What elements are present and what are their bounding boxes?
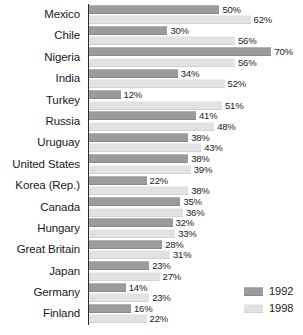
bar-1992 [89, 304, 131, 313]
category-axis-labels: MexicoChileNigeriaIndiaTurkeyRussiaUrugu… [0, 4, 84, 325]
legend-item-1992[interactable]: 1992 [244, 284, 293, 298]
chart-legend: 19921998 [244, 284, 293, 318]
legend-swatch-icon [244, 304, 263, 313]
bar-value-label: 28% [165, 240, 183, 249]
bar-1998 [89, 101, 222, 110]
bar-value-label: 70% [274, 47, 292, 56]
bar-1998 [89, 36, 235, 45]
bar-1992 [89, 111, 196, 120]
category-label: Uruguay [0, 132, 84, 153]
bar-value-label: 50% [222, 5, 240, 14]
category-label: United States [0, 154, 84, 175]
bar-1992 [89, 133, 188, 142]
legend-item-1998[interactable]: 1998 [244, 301, 293, 315]
bar-value-label: 27% [163, 272, 181, 281]
bar-group: 50%62% [89, 4, 303, 25]
category-label: Chile [0, 25, 84, 46]
bar-value-label: 35% [183, 197, 201, 206]
bar-group: 34%52% [89, 68, 303, 89]
bar-1998 [89, 58, 235, 67]
bar-1992 [89, 261, 149, 270]
legend-label: 1998 [269, 302, 293, 314]
bar-value-label: 56% [238, 36, 256, 45]
bar-1998 [89, 208, 183, 217]
bar-1998 [89, 272, 159, 281]
bar-value-label: 32% [176, 218, 194, 227]
bar-value-label: 30% [170, 26, 188, 35]
bar-1998 [89, 250, 170, 259]
plot-area: 50%62%30%56%70%56%34%52%12%51%41%48%38%4… [88, 4, 303, 325]
bar-1998 [89, 122, 214, 131]
category-label: Russia [0, 111, 84, 132]
bar-value-label: 12% [124, 90, 142, 99]
bar-group: 28%31% [89, 239, 303, 260]
bar-group: 41%48% [89, 111, 303, 132]
category-label: Canada [0, 197, 84, 218]
bar-value-label: 62% [254, 15, 272, 24]
bar-value-label: 22% [150, 176, 168, 185]
bar-group: 38%43% [89, 132, 303, 153]
category-label: Mexico [0, 4, 84, 25]
legend-label: 1992 [269, 285, 293, 297]
bar-value-label: 38% [191, 154, 209, 163]
bar-1998 [89, 293, 149, 302]
bar-1992 [89, 90, 120, 99]
bar-value-label: 16% [134, 304, 152, 313]
bar-group: 22%38% [89, 175, 303, 196]
bar-value-label: 34% [181, 69, 199, 78]
bar-1992 [89, 69, 177, 78]
bar-value-label: 41% [199, 111, 217, 120]
bar-value-label: 23% [152, 293, 170, 302]
bar-1992 [89, 47, 271, 56]
bar-1998 [89, 314, 146, 323]
bar-value-label: 51% [225, 101, 243, 110]
bar-value-label: 38% [191, 133, 209, 142]
bar-value-label: 38% [191, 186, 209, 195]
category-label: Finland [0, 303, 84, 324]
bar-1992 [89, 26, 167, 35]
category-label: Hungary [0, 218, 84, 239]
bar-1998 [89, 79, 224, 88]
bar-value-label: 56% [238, 58, 256, 67]
bar-group: 23%27% [89, 261, 303, 282]
bar-1992 [89, 5, 219, 14]
category-label: Turkey [0, 90, 84, 111]
bar-1998 [89, 186, 188, 195]
bar-1992 [89, 154, 188, 163]
bar-value-label: 14% [129, 283, 147, 292]
bar-value-label: 22% [150, 314, 168, 323]
category-label: Germany [0, 282, 84, 303]
bar-value-label: 39% [194, 165, 212, 174]
bar-value-label: 43% [204, 143, 222, 152]
bar-value-label: 23% [152, 261, 170, 270]
bar-value-label: 33% [178, 229, 196, 238]
bar-1998 [89, 15, 250, 24]
category-label: India [0, 68, 84, 89]
bar-value-label: 48% [217, 122, 235, 131]
category-label: Nigeria [0, 47, 84, 68]
bar-1998 [89, 165, 190, 174]
bar-group: 12%51% [89, 90, 303, 111]
bar-chart: MexicoChileNigeriaIndiaTurkeyRussiaUrugu… [0, 0, 303, 335]
bar-group: 30%56% [89, 25, 303, 46]
bar-group: 32%33% [89, 218, 303, 239]
bar-1992 [89, 240, 162, 249]
bar-1998 [89, 143, 201, 152]
category-label: Korea (Rep.) [0, 175, 84, 196]
bar-value-label: 36% [186, 208, 204, 217]
bar-group: 70%56% [89, 47, 303, 68]
bar-value-label: 52% [228, 79, 246, 88]
bar-rows: 50%62%30%56%70%56%34%52%12%51%41%48%38%4… [89, 4, 303, 325]
bar-1998 [89, 229, 175, 238]
legend-swatch-icon [244, 287, 263, 296]
bar-1992 [89, 283, 125, 292]
category-label: Japan [0, 261, 84, 282]
bar-value-label: 31% [173, 250, 191, 259]
category-label: Great Britain [0, 239, 84, 260]
bar-group: 35%36% [89, 197, 303, 218]
bar-1992 [89, 197, 180, 206]
bar-1992 [89, 176, 146, 185]
bar-group: 38%39% [89, 154, 303, 175]
bar-1992 [89, 218, 172, 227]
